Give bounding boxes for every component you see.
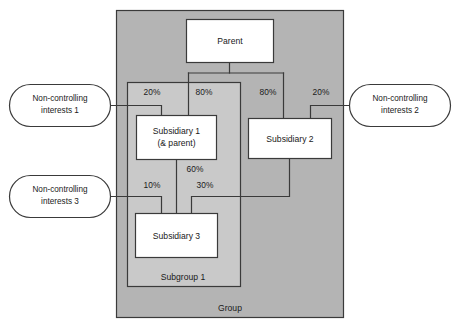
zone-label-subgroup-1: Subgroup 1 [161,272,206,282]
callout-nci-3-line1: Non-controlling [32,185,88,194]
diagram-canvas: Parent Subsidiary 1 (& parent) Subsidiar… [0,0,452,327]
callout-nci-1-line1: Non-controlling [32,94,88,103]
callout-nci-3-line2: interests 3 [41,197,79,206]
ownership-label-parent-subsidiary1: 80% [196,87,213,97]
entity-label-subsidiary-3: Subsidiary 3 [153,231,201,241]
entity-label-subsidiary-1: Subsidiary 1 [153,126,201,136]
callout-nci-1-line2: interests 1 [41,106,79,115]
callout-nci-2-line2: interests 2 [381,106,419,115]
ownership-label-nci2-subsidiary2: 20% [313,87,330,97]
callout-nci-2-line1: Non-controlling [372,94,428,103]
ownership-label-parent-subsidiary2: 80% [260,87,277,97]
ownership-label-subsidiary1-subsidiary3: 60% [187,164,204,174]
ownership-label-subsidiary2-subsidiary3: 30% [197,180,214,190]
zone-label-group: Group [218,303,242,313]
entity-label-parent: Parent [217,36,243,46]
entity-sublabel-subsidiary-1: (& parent) [157,138,195,148]
ownership-label-nci3-subsidiary3: 10% [144,180,161,190]
org-structure-diagram: Parent Subsidiary 1 (& parent) Subsidiar… [0,0,452,327]
ownership-label-nci1-subsidiary1: 20% [144,87,161,97]
entity-label-subsidiary-2: Subsidiary 2 [266,134,314,144]
